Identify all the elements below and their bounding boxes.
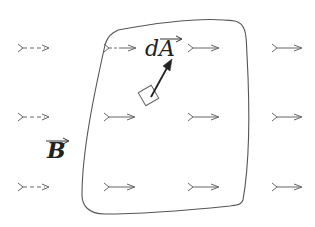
field-arrow-icon — [272, 113, 302, 121]
area-element-label: dA — [145, 38, 175, 60]
diagram-canvas — [0, 0, 315, 227]
field-arrow-dashed-icon — [18, 113, 49, 121]
field-arrow-icon — [104, 44, 136, 52]
field-arrow-icon — [272, 183, 302, 191]
field-arrow-icon — [188, 44, 219, 52]
field-arrow-row-3 — [18, 183, 302, 191]
field-arrow-dashed-icon — [18, 44, 49, 52]
field-arrow-row-2 — [18, 113, 302, 121]
field-arrow-icon — [104, 113, 135, 121]
field-arrow-icon — [272, 44, 302, 52]
field-arrow-icon — [104, 183, 135, 191]
field-arrow-icon — [188, 113, 219, 121]
magnetic-field-label: B — [47, 139, 66, 161]
field-arrow-icon — [188, 183, 219, 191]
field-arrow-dashed-icon — [18, 183, 49, 191]
area-vector-arrow-icon — [151, 59, 172, 97]
